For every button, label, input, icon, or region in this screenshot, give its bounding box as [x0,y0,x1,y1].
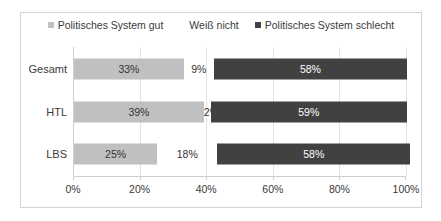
bar-row-gesamt: 33%9%58% [74,59,407,80]
x-tick-label-20: 20% [129,183,150,195]
x-axis-line [73,176,406,177]
plot-wrapper: Gesamt HTL LBS 33%9%58%39%2%59%25%18%58%… [21,47,421,209]
chart-frame: Politisches System gut Weiß nicht Politi… [20,12,422,208]
x-tick-60 [273,176,274,180]
legend-swatch-icon-series-1 [179,22,185,28]
bar-row-htl: 39%2%59% [74,101,407,122]
chart-legend: Politisches System gut Weiß nicht Politi… [21,20,421,31]
bar-value-label-htl-series-1: 2% [204,101,211,122]
bar-row-lbs: 25%18%58% [74,144,407,165]
x-tick-label-40: 40% [196,183,217,195]
legend-swatch-icon-series-2 [255,22,261,28]
legend-item-weiss-nicht[interactable]: Weiß nicht [179,20,238,31]
bar-value-label-gesamt-series-2: 58% [214,59,407,80]
y-axis-category-labels: Gesamt HTL LBS [21,47,73,176]
y-axis-label-htl: HTL [46,106,67,118]
x-tick-label-100: 100% [393,183,420,195]
plot-area: 33%9%58%39%2%59%25%18%58% [73,47,407,176]
x-tick-20 [140,176,141,180]
x-tick-80 [339,176,340,180]
bar-value-label-lbs-series-1: 18% [157,144,217,165]
x-tick-100 [405,176,406,180]
bar-value-label-lbs-series-0: 25% [74,144,157,165]
legend-label-series-0: Politisches System gut [58,20,164,31]
bar-value-label-htl-series-2: 59% [211,101,407,122]
x-axis: 0%20%40%60%80%100% [73,176,406,209]
legend-label-series-2: Politisches System schlecht [265,20,395,31]
x-tick-label-60: 60% [262,183,283,195]
bar-value-label-lbs-series-2: 58% [217,144,410,165]
legend-item-politisches-system-gut[interactable]: Politisches System gut [48,20,164,31]
x-tick-40 [206,176,207,180]
y-axis-label-lbs: LBS [46,148,67,160]
bar-value-label-htl-series-0: 39% [74,101,204,122]
bar-value-label-gesamt-series-0: 33% [74,59,184,80]
x-tick-0 [73,176,74,180]
legend-swatch-icon-series-0 [48,22,54,28]
legend-item-politisches-system-schlecht[interactable]: Politisches System schlecht [255,20,395,31]
x-tick-label-80: 80% [329,183,350,195]
x-tick-label-0: 0% [65,183,80,195]
legend-label-series-1: Weiß nicht [189,20,238,31]
bar-value-label-gesamt-series-1: 9% [184,59,214,80]
y-axis-label-gesamt: Gesamt [28,63,67,75]
